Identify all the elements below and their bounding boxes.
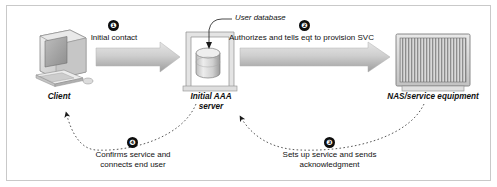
- step-1-arrow: [96, 42, 180, 72]
- nas-chassis-icon: [396, 34, 470, 91]
- step-3-label-line1: Sets up service and sends: [266, 150, 393, 160]
- step-4-label: Confirms service and connects end user: [83, 150, 183, 169]
- step-1-label: Initial contact: [85, 33, 143, 43]
- node-label-client: Client: [33, 92, 85, 102]
- step-3-label: Sets up service and sends acknowledgment: [266, 150, 393, 169]
- step-4-label-line2: connects end user: [83, 160, 183, 170]
- step-4-label-line1: Confirms service and: [83, 150, 183, 160]
- step-2-badge: ❷: [299, 20, 310, 31]
- node-label-aaa-server: Initial AAA server: [180, 92, 242, 111]
- database-cylinder-icon: [196, 48, 220, 78]
- node-label-aaa-server-line1: Initial AAA: [180, 92, 242, 102]
- user-database-callout-label: User database: [235, 13, 286, 23]
- node-label-nas: NAS/service equipment: [373, 92, 493, 102]
- step-2-label: Authorizes and tells eqt to provision SV…: [229, 33, 371, 43]
- step-2-arrow: [240, 42, 390, 72]
- diagram-figure: User database Client Initial AAA server …: [0, 0, 497, 187]
- step-1-badge: ❶: [108, 20, 119, 31]
- step-3-badge: ❸: [324, 137, 335, 148]
- node-label-aaa-server-line2: server: [180, 102, 242, 112]
- step-4-badge: ❹: [127, 137, 138, 148]
- step-3-label-line2: acknowledgment: [266, 160, 393, 170]
